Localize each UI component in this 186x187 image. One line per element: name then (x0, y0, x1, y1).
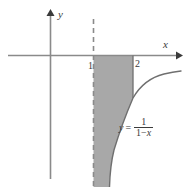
fraction-numerator: 1 (138, 117, 149, 127)
equation-lhs: y (119, 123, 123, 133)
y-axis-arrow-icon (47, 9, 55, 16)
x-axis-arrow-icon (176, 52, 183, 60)
x-tick-label-1: 1 (88, 61, 93, 71)
fraction-denominator: 1−x (134, 128, 153, 138)
denominator-right-term: x (147, 127, 151, 138)
equation-equals-sign: = (125, 123, 131, 133)
y-axis-label: y (58, 9, 63, 20)
x-axis-label: x (163, 39, 168, 50)
plot-canvas (0, 0, 186, 187)
curve-equation-annotation: y = 1 1−x (119, 117, 153, 138)
x-tick-label-2: 2 (135, 59, 140, 69)
figure-container: y x 1 2 y = 1 1−x (0, 0, 186, 187)
equation-fraction: 1 1−x (134, 117, 153, 138)
